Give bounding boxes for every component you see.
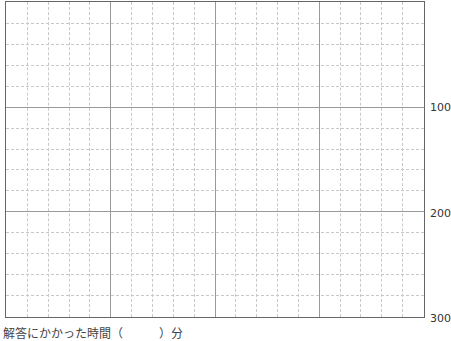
minor-horizontal-gridline <box>6 23 424 24</box>
minor-vertical-gridline <box>381 2 382 317</box>
minor-vertical-gridline <box>194 2 195 317</box>
minor-vertical-gridline <box>235 2 236 317</box>
minor-vertical-gridline <box>277 2 278 317</box>
minor-vertical-gridline <box>402 2 403 317</box>
minor-horizontal-gridline <box>6 44 424 45</box>
tick-label-100: 100 <box>430 101 451 114</box>
minor-vertical-gridline <box>27 2 28 317</box>
minor-vertical-gridline <box>89 2 90 317</box>
minor-horizontal-gridline <box>6 169 424 170</box>
minor-vertical-gridline <box>131 2 132 317</box>
tick-label-300: 300 <box>430 312 451 325</box>
major-horizontal-gridline <box>6 107 424 108</box>
minor-horizontal-gridline <box>6 295 424 296</box>
minor-vertical-gridline <box>152 2 153 317</box>
minor-horizontal-gridline <box>6 274 424 275</box>
major-vertical-gridline <box>215 2 216 317</box>
minor-horizontal-gridline <box>6 253 424 254</box>
minor-vertical-gridline <box>48 2 49 317</box>
minor-horizontal-gridline <box>6 65 424 66</box>
tick-label-200: 200 <box>430 207 451 220</box>
major-horizontal-gridline <box>6 211 424 212</box>
minor-horizontal-gridline <box>6 190 424 191</box>
major-vertical-gridline <box>319 2 320 317</box>
major-vertical-gridline <box>110 2 111 317</box>
answer-grid <box>5 1 425 318</box>
minor-vertical-gridline <box>173 2 174 317</box>
minor-horizontal-gridline <box>6 232 424 233</box>
minor-horizontal-gridline <box>6 86 424 87</box>
time-caption: 解答にかかった時間（ ）分 <box>3 324 183 341</box>
minor-horizontal-gridline <box>6 149 424 150</box>
minor-vertical-gridline <box>360 2 361 317</box>
minor-vertical-gridline <box>340 2 341 317</box>
minor-horizontal-gridline <box>6 128 424 129</box>
minor-vertical-gridline <box>256 2 257 317</box>
minor-vertical-gridline <box>298 2 299 317</box>
minor-vertical-gridline <box>69 2 70 317</box>
